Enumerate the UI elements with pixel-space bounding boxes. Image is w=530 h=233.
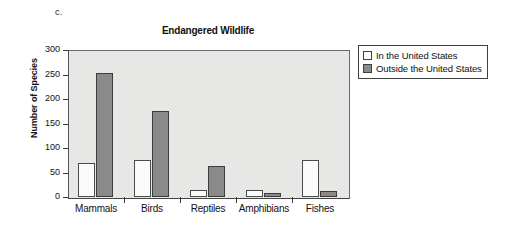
y-axis-tick bbox=[63, 173, 69, 174]
y-axis-tick-label: 100 bbox=[30, 143, 60, 153]
chart-legend: In the United StatesOutside the United S… bbox=[358, 45, 488, 79]
chart-title: Endangered Wildlife bbox=[68, 25, 348, 36]
y-axis-tick bbox=[63, 75, 69, 76]
y-axis-tick-label-text: 50 bbox=[32, 168, 60, 177]
y-axis-tick-label-text: 100 bbox=[32, 143, 60, 152]
y-axis-tick-label: 150 bbox=[30, 119, 60, 129]
gray-square-icon bbox=[363, 64, 372, 73]
y-axis-tick bbox=[63, 50, 69, 51]
bar-fishes-outside-us bbox=[320, 191, 337, 197]
y-axis-tick bbox=[63, 99, 69, 100]
part-label: c. bbox=[55, 7, 62, 17]
y-axis-tick-label: 50 bbox=[30, 168, 60, 178]
legend-entry: Outside the United States bbox=[363, 62, 482, 75]
bar-birds-in-us bbox=[134, 160, 151, 197]
bar-birds-outside-us bbox=[152, 111, 169, 197]
y-axis-tick bbox=[63, 197, 69, 198]
bar-fishes-in-us bbox=[302, 160, 319, 197]
bar-amphibians-in-us bbox=[246, 190, 263, 197]
y-axis-tick-label-text: 150 bbox=[32, 119, 60, 128]
bar-mammals-outside-us bbox=[96, 73, 113, 197]
y-axis-tick-label: 0 bbox=[30, 192, 60, 202]
x-axis-category-label: Fishes bbox=[270, 203, 370, 214]
bar-mammals-in-us bbox=[78, 163, 95, 197]
bar-reptiles-outside-us bbox=[208, 166, 225, 197]
y-axis-tick-label-text: 0 bbox=[32, 192, 60, 201]
bar-reptiles-in-us bbox=[190, 190, 207, 197]
white-square-icon bbox=[363, 51, 372, 60]
y-axis-tick-label: 200 bbox=[30, 94, 60, 104]
y-axis-tick-label-text: 250 bbox=[32, 70, 60, 79]
legend-entry-label: In the United States bbox=[376, 50, 457, 61]
legend-entry: In the United States bbox=[363, 49, 482, 62]
y-axis-tick-label: 250 bbox=[30, 70, 60, 80]
legend-entry-label: Outside the United States bbox=[376, 63, 482, 74]
y-axis-tick bbox=[63, 148, 69, 149]
y-axis-tick bbox=[63, 124, 69, 125]
y-axis-tick-label-text: 200 bbox=[32, 94, 60, 103]
y-axis-tick-label-text: 300 bbox=[32, 45, 60, 54]
endangered-wildlife-figure: c. Endangered Wildlife Number of Species… bbox=[0, 0, 530, 233]
bar-amphibians-outside-us bbox=[264, 193, 281, 197]
y-axis-tick-label: 300 bbox=[30, 45, 60, 55]
